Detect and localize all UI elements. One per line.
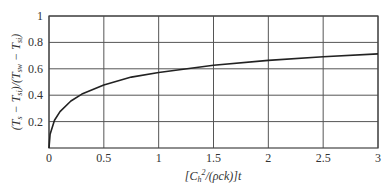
x-tick-label: 1.5: [206, 151, 221, 165]
x-axis-label: [Ch2/(ρck)]t: [185, 168, 242, 184]
y-tick-label: 0.6: [28, 62, 43, 76]
y-tick-label: 0.2: [28, 115, 43, 129]
y-tick-labels: 0.20.40.60.81: [28, 9, 43, 129]
x-tick-label: 3: [375, 151, 381, 165]
grid-lines: [49, 16, 378, 148]
y-tick-label: 1: [37, 9, 43, 23]
x-tick-label: 0: [46, 151, 52, 165]
x-tick-label: 1: [156, 151, 162, 165]
x-tick-label: 2.5: [316, 151, 331, 165]
x-tick-label: 0.5: [96, 151, 111, 165]
x-tick-label: 2: [265, 151, 271, 165]
x-tick-labels: 00.511.522.53: [46, 151, 381, 165]
y-tick-label: 0.4: [28, 88, 43, 102]
y-axis-label: (Ts − Tsi)/(Tsw − Tsi): [9, 34, 24, 131]
y-tick-label: 0.8: [28, 35, 43, 49]
chart: 00.511.522.53 0.20.40.60.81 [Ch2/(ρck)]t…: [0, 0, 392, 188]
